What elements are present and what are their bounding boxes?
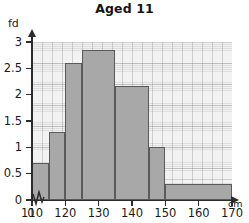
histogram-bar bbox=[65, 63, 82, 200]
x-axis-tick-label: 150 bbox=[154, 206, 176, 220]
x-axis-tick-label: 160 bbox=[188, 206, 210, 220]
x-axis-tick-label: 120 bbox=[54, 206, 76, 220]
y-axis-tick bbox=[26, 68, 32, 69]
x-axis-tick-label: 140 bbox=[121, 206, 143, 220]
histogram-bar bbox=[82, 50, 115, 200]
x-axis-unit-label: cm bbox=[228, 198, 242, 209]
y-axis-tick bbox=[26, 173, 32, 174]
histogram-bar bbox=[149, 147, 166, 200]
x-axis-tick-label: 110 bbox=[21, 206, 43, 220]
y-axis-line bbox=[31, 36, 33, 202]
y-axis-tick bbox=[26, 147, 32, 148]
y-axis-tick-label: 1.5 bbox=[4, 114, 22, 128]
histogram-bar bbox=[49, 132, 66, 200]
y-axis-tick-label: 0 bbox=[15, 193, 22, 207]
y-axis-tick-label: 0.5 bbox=[4, 166, 22, 180]
y-axis-tick-label: 2.5 bbox=[4, 61, 22, 75]
histogram-bar bbox=[165, 184, 232, 200]
chart-title: Aged 11 bbox=[0, 1, 249, 16]
histogram-bar bbox=[115, 86, 148, 200]
y-axis-arrow-icon bbox=[28, 29, 36, 37]
y-axis-tick-label: 3 bbox=[15, 35, 22, 49]
y-axis-tick bbox=[26, 120, 32, 121]
y-axis-tick bbox=[26, 41, 32, 42]
y-axis-tick-label: 1 bbox=[15, 140, 22, 154]
y-axis-tick bbox=[26, 94, 32, 95]
x-axis-tick-label: 130 bbox=[88, 206, 110, 220]
y-axis-label: fd bbox=[8, 17, 19, 30]
plot-area bbox=[32, 42, 232, 200]
y-axis-tick-label: 2 bbox=[15, 87, 22, 101]
histogram-chart: Aged 11 fd 00.511.522.53 011012013014015… bbox=[0, 0, 249, 223]
